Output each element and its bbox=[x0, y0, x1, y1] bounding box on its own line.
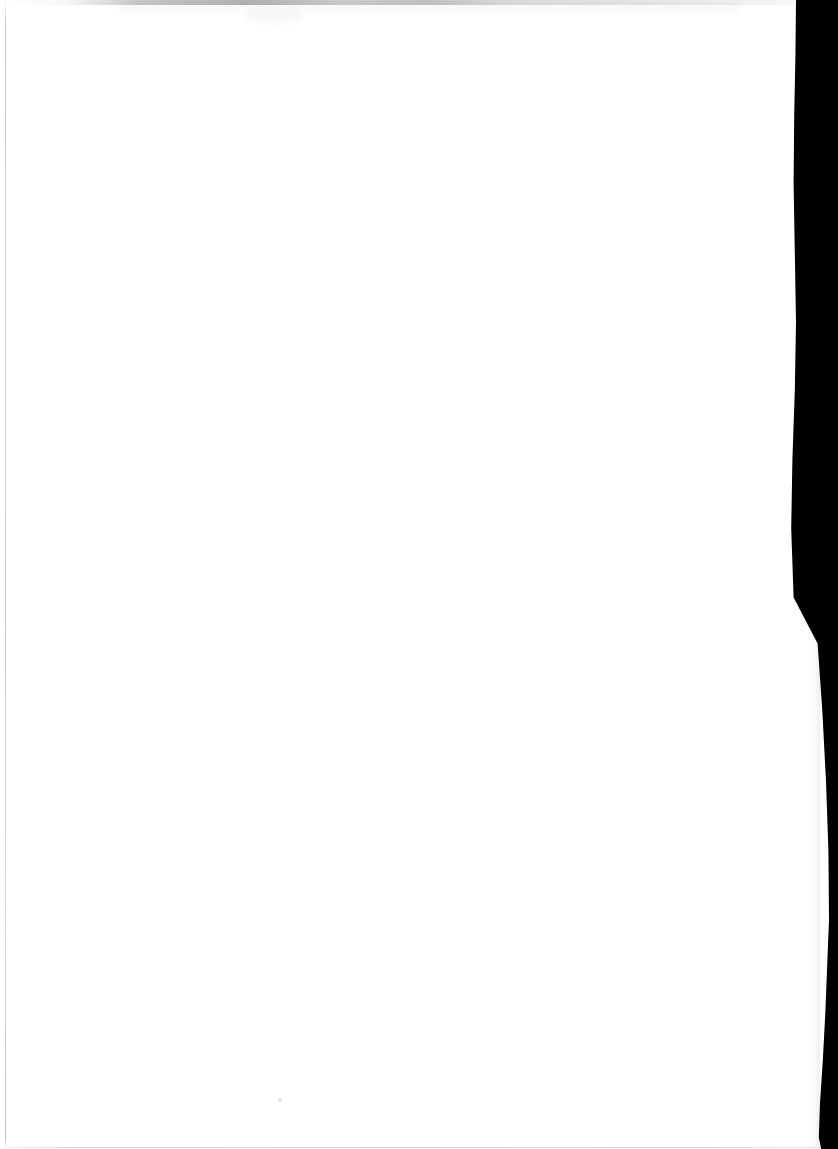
left-edge-rule-artifact bbox=[5, 0, 6, 1149]
scanned-page-canvas: Blank scanned page — no printed text or … bbox=[0, 0, 838, 1149]
dust-speck-artifact bbox=[278, 1098, 282, 1102]
top-edge-blob-artifact bbox=[244, 8, 304, 24]
top-edge-haze-artifact bbox=[120, 3, 740, 17]
page-body: Blank scanned page — no printed text or … bbox=[6, 5, 812, 1144]
bottom-edge-rule-artifact bbox=[4, 1147, 830, 1148]
